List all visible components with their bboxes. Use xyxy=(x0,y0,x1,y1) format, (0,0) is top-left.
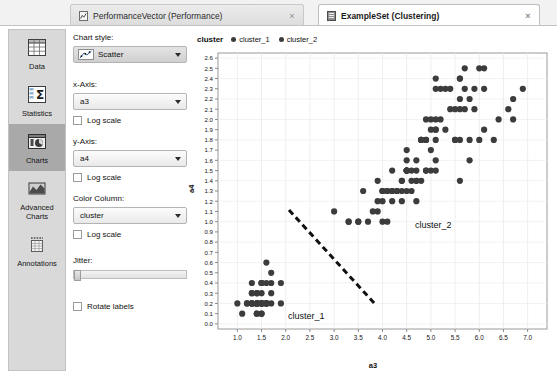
svg-text:6.5: 6.5 xyxy=(499,334,508,341)
table-grid-icon xyxy=(25,37,49,59)
jitter-slider[interactable] xyxy=(73,270,187,279)
svg-text:0.5: 0.5 xyxy=(205,269,214,276)
svg-text:1.6: 1.6 xyxy=(205,157,214,164)
chart-style-value: Scatter xyxy=(94,50,123,59)
svg-text:1.0: 1.0 xyxy=(205,218,214,225)
svg-text:0.9: 0.9 xyxy=(205,228,214,235)
svg-text:Σ: Σ xyxy=(36,88,44,102)
x-log-scale-checkbox[interactable] xyxy=(73,116,82,125)
y-log-scale-checkbox[interactable] xyxy=(73,173,82,182)
color-column-value: cluster xyxy=(74,211,104,220)
x-axis-label: x-Axis: xyxy=(73,80,191,89)
svg-text:2.5: 2.5 xyxy=(305,334,314,341)
svg-text:1.0: 1.0 xyxy=(233,334,242,341)
sidebar-item-label: Data xyxy=(29,62,45,71)
sidebar-item-data[interactable]: Data xyxy=(9,30,65,77)
tab-label: ExampleSet (Clustering) xyxy=(341,11,523,21)
svg-text:2.3: 2.3 xyxy=(205,85,214,92)
svg-text:1.3: 1.3 xyxy=(205,187,214,194)
sidebar-item-label: Charts xyxy=(26,156,48,165)
svg-text:1.2: 1.2 xyxy=(205,198,214,205)
sidebar-item-annotations[interactable]: Annotations xyxy=(9,227,65,274)
x-log-scale-row[interactable]: Log scale xyxy=(73,116,191,125)
x-log-scale-label: Log scale xyxy=(87,116,121,125)
sidebar-item-charts[interactable]: Charts xyxy=(9,124,65,171)
svg-text:1.5: 1.5 xyxy=(257,334,266,341)
svg-text:0.3: 0.3 xyxy=(205,290,214,297)
svg-text:7.0: 7.0 xyxy=(523,334,532,341)
sidebar-item-label: Annotations xyxy=(17,259,57,268)
cluster-1-annotation: cluster_1 xyxy=(288,311,325,321)
scatter-chart-icon xyxy=(78,49,94,60)
close-icon[interactable]: × xyxy=(287,11,297,21)
sidebar-item-label: Advanced Charts xyxy=(11,203,63,221)
scatter-plot[interactable]: 0.00.10.20.30.40.50.60.70.80.91.01.11.21… xyxy=(193,29,553,374)
y-axis-title: a4 xyxy=(187,185,196,193)
tab-performance-vector[interactable]: PerformanceVector (Performance) × xyxy=(70,4,304,26)
view-mode-rail: Data Σ Statistics xyxy=(8,29,66,371)
svg-text:4.0: 4.0 xyxy=(378,334,387,341)
x-axis-select[interactable]: a3 xyxy=(73,93,187,110)
svg-text:0.1: 0.1 xyxy=(205,310,214,317)
chart-options-panel: Chart style: Scatter x-Axis: a3 Log sc xyxy=(73,33,191,363)
jitter-slider-thumb[interactable] xyxy=(74,270,81,281)
x-axis-title: a3 xyxy=(193,361,553,370)
color-log-scale-row[interactable]: Log scale xyxy=(73,230,191,239)
color-log-scale-checkbox[interactable] xyxy=(73,230,82,239)
svg-text:4.5: 4.5 xyxy=(402,334,411,341)
chart-style-select[interactable]: Scatter xyxy=(73,46,187,63)
chevron-down-icon xyxy=(175,53,181,57)
x-axis-value: a3 xyxy=(74,97,89,106)
cluster-2-annotation: cluster_2 xyxy=(415,220,452,230)
chevron-down-icon xyxy=(175,100,181,104)
tab-label: PerformanceVector (Performance) xyxy=(93,11,287,21)
svg-text:0.4: 0.4 xyxy=(205,279,214,286)
rotate-labels-label: Rotate labels xyxy=(87,302,134,311)
tab-exampleset-clustering[interactable]: ExampleSet (Clustering) × xyxy=(318,4,540,26)
tab-strip: PerformanceVector (Performance) × Exampl… xyxy=(0,0,557,26)
sidebar-item-label: Statistics xyxy=(22,109,52,118)
svg-text:5.0: 5.0 xyxy=(426,334,435,341)
sidebar-item-advanced-charts[interactable]: Advanced Charts xyxy=(9,171,65,227)
chevron-down-icon xyxy=(175,157,181,161)
jitter-label: Jitter: xyxy=(73,256,191,265)
y-log-scale-label: Log scale xyxy=(87,173,121,182)
sigma-statistics-icon: Σ xyxy=(25,84,49,106)
exampleset-icon xyxy=(327,11,336,21)
advanced-chart-icon xyxy=(25,178,49,200)
svg-text:1.7: 1.7 xyxy=(205,146,214,153)
sidebar-item-statistics[interactable]: Σ Statistics xyxy=(9,77,65,124)
rotate-labels-row[interactable]: Rotate labels xyxy=(73,302,191,311)
svg-text:0.6: 0.6 xyxy=(205,259,214,266)
svg-text:0.0: 0.0 xyxy=(205,320,214,327)
y-log-scale-row[interactable]: Log scale xyxy=(73,173,191,182)
svg-text:5.5: 5.5 xyxy=(451,334,460,341)
svg-text:2.6: 2.6 xyxy=(205,54,214,61)
close-icon[interactable]: × xyxy=(523,11,533,21)
y-axis-value: a4 xyxy=(74,154,89,163)
chevron-down-icon xyxy=(175,214,181,218)
svg-text:2.5: 2.5 xyxy=(205,65,214,72)
svg-text:1.5: 1.5 xyxy=(205,167,214,174)
pie-chart-icon xyxy=(25,131,49,153)
svg-text:2.2: 2.2 xyxy=(205,95,214,102)
svg-text:0.7: 0.7 xyxy=(205,249,214,256)
svg-text:3.0: 3.0 xyxy=(330,334,339,341)
annotations-icon xyxy=(25,234,49,256)
y-axis-label: y-Axis: xyxy=(73,137,191,146)
results-view: PerformanceVector (Performance) × Exampl… xyxy=(0,0,557,378)
color-log-scale-label: Log scale xyxy=(87,230,121,239)
svg-text:0.2: 0.2 xyxy=(205,300,214,307)
chart-style-label: Chart style: xyxy=(73,33,191,42)
svg-text:1.8: 1.8 xyxy=(205,136,214,143)
color-column-label: Color Column: xyxy=(73,194,191,203)
scatter-plot-canvas[interactable]: 0.00.10.20.30.40.50.60.70.80.91.01.11.21… xyxy=(193,29,553,374)
svg-text:2.0: 2.0 xyxy=(281,334,290,341)
svg-text:2.0: 2.0 xyxy=(205,116,214,123)
svg-text:2.4: 2.4 xyxy=(205,75,214,82)
rotate-labels-checkbox[interactable] xyxy=(73,302,82,311)
y-axis-select[interactable]: a4 xyxy=(73,150,187,167)
color-column-select[interactable]: cluster xyxy=(73,207,187,224)
svg-text:0.8: 0.8 xyxy=(205,238,214,245)
svg-text:1.4: 1.4 xyxy=(205,177,214,184)
